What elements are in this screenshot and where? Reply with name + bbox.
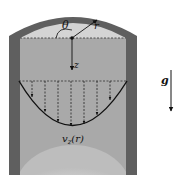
velocity-argument: (r) <box>71 133 84 144</box>
gravity-label: g <box>161 74 169 87</box>
z-label: z <box>73 60 79 70</box>
pipe-flow-diagram: θ r z vz(r) g <box>0 0 178 182</box>
theta-label: θ <box>62 19 69 32</box>
